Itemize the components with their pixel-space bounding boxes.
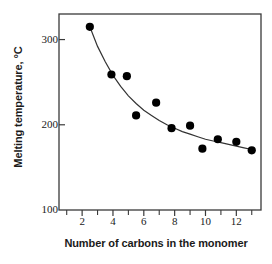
data-point — [152, 99, 160, 107]
data-point — [132, 111, 140, 119]
x-tick-label: 4 — [102, 216, 124, 227]
data-point — [232, 138, 240, 146]
data-point — [167, 124, 175, 132]
axis-frame — [59, 14, 261, 210]
x-tick-label: 6 — [133, 216, 155, 227]
x-tick-label: 2 — [71, 216, 93, 227]
chart-figure: Melting temperature, °C 100200300 246810… — [0, 0, 272, 264]
y-axis-ticks — [59, 40, 65, 125]
data-point — [186, 122, 194, 130]
x-tick-label: 8 — [164, 216, 186, 227]
data-point — [198, 145, 206, 153]
x-axis-title: Number of carbons in the monomer — [40, 237, 272, 249]
data-point — [248, 146, 256, 154]
data-point — [107, 70, 115, 78]
data-point-series — [86, 23, 256, 155]
x-axis-tick-labels: 24681012 — [0, 216, 272, 232]
x-tick-label: 12 — [225, 216, 247, 227]
data-point — [214, 135, 222, 143]
x-tick-label: 10 — [194, 216, 216, 227]
data-point — [86, 23, 94, 31]
data-point — [123, 72, 131, 80]
